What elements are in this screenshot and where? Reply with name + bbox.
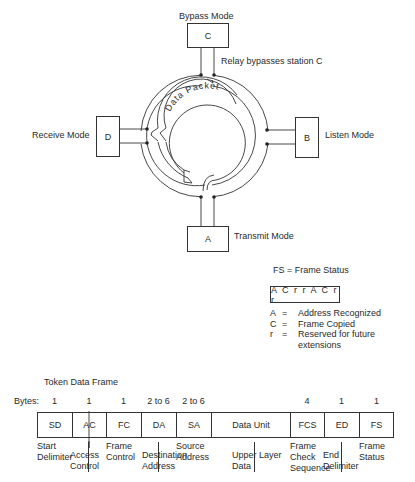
listen-mode-label: Listen Mode [325,130,374,141]
fs-legend-eq: = [282,329,298,340]
desc-sd: Start Delimiter [37,441,73,463]
field-sa: SA [177,413,212,437]
packet-band-inner-2 [166,142,184,170]
desc-fs-line1: Frame [359,441,385,452]
fs-legend-key: r [270,329,282,340]
fs-legend-eq: = [282,308,298,319]
desc-du-line2: Data [232,461,282,472]
field-ed: ED [325,413,360,437]
field-sd: SD [38,413,73,437]
desc-fc: Frame Control [106,441,135,463]
field-fs: FS [360,413,393,437]
relay-note: Relay bypasses station C [221,56,323,67]
station-d-letter: D [105,132,112,142]
field-data-unit: Data Unit [212,413,291,437]
desc-ac-line2: Control [70,461,99,472]
desc-fc-line2: Control [106,452,135,463]
station-a-letter: A [205,234,211,244]
fs-bit-layout: A C r r A C r r [270,286,340,303]
field-ac: AC [73,413,107,437]
bytes-fs: 1 [359,396,394,406]
desc-ac: Access Control [70,450,99,472]
fs-bits: A C r r A C r r [271,285,339,305]
bytes-ed: 1 [324,396,359,406]
field-fcs: FCS [291,413,325,437]
fs-legend-item: A = Address Recognized [270,308,381,319]
fs-legend-key: A [270,308,282,319]
field-da: DA [142,413,177,437]
outer-ring [141,75,268,196]
desc-fs: Frame Status [359,441,385,463]
fs-legend-title: FS = Frame Status [273,265,349,276]
token-frame: SD AC FC DA SA Data Unit FCS ED FS [37,412,394,438]
bytes-da: 2 to 6 [141,396,176,406]
bypass-mode-label: Bypass Mode [179,11,234,22]
fs-legend-key [270,340,282,351]
bytes-fc: 1 [106,396,141,406]
desc-ed: End Delimiter [323,450,359,472]
frame-title: Token Data Frame [44,377,118,388]
desc-da-line1: Destination [142,450,187,461]
fs-legend-item: C = Frame Copied [270,319,381,330]
desc-da: Destination Address [142,450,187,472]
desc-du: Upper Layer Data [232,450,282,472]
station-c-letter: C [205,31,212,41]
fs-legend-desc: Reserved for future [298,329,375,340]
fs-legend-key: C [270,319,282,330]
station-d: D [96,116,120,157]
fs-legend-eq [282,340,298,351]
desc-sd-line1: Start [37,441,73,452]
desc-ac-line1: Access [70,450,99,461]
station-c: C [187,23,229,48]
fs-legend-desc: Frame Copied [298,319,355,330]
station-b-letter: B [304,133,310,143]
transmit-mode-label: Transmit Mode [234,231,294,242]
bytes-sa: 2 to 6 [176,396,211,406]
desc-fs-line2: Status [359,452,385,463]
desc-fc-line1: Frame [106,441,135,452]
bytes-label: Bytes: [14,396,39,407]
bytes-fcs: 4 [290,396,324,406]
desc-du-line1: Upper Layer [232,450,282,461]
fs-legend-desc: extensions [298,340,341,351]
fs-legend-item: extensions [270,340,381,351]
bytes-sd: 1 [37,396,72,406]
receive-mode-label: Receive Mode [32,130,90,141]
field-fc: FC [107,413,142,437]
fs-legend-list: A = Address Recognized C = Frame Copied … [270,308,381,350]
fs-legend-desc: Address Recognized [298,308,381,319]
desc-ed-line2: Delimiter [323,461,359,472]
receive-arrow [151,128,166,141]
fs-legend-eq: = [282,319,298,330]
desc-da-line2: Address [142,461,187,472]
desc-ed-line1: End [323,450,359,461]
fs-legend-item: r = Reserved for future [270,329,381,340]
desc-sd-line2: Delimiter [37,452,73,463]
station-a: A [187,226,229,252]
inner-ring-track [147,86,256,186]
leader-access-control-line [88,411,89,412]
station-b: B [295,117,319,158]
bytes-ac: 1 [72,396,106,406]
